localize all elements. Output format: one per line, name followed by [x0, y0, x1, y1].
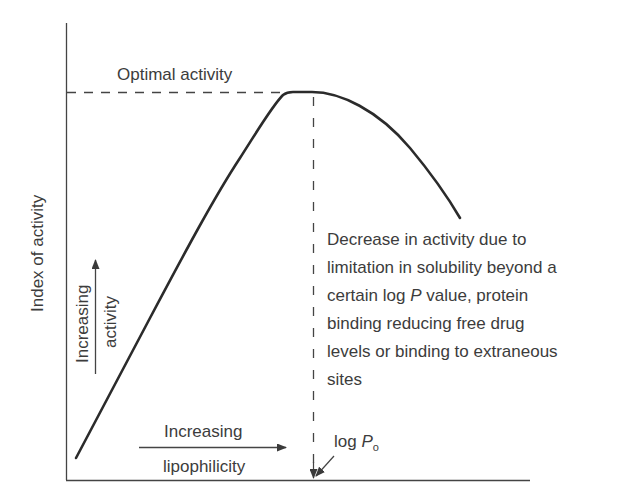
logp0-sub: o	[373, 441, 379, 453]
optimal-activity-label: Optimal activity	[117, 61, 232, 89]
note-line-3-var: P	[410, 286, 421, 305]
note-line-2: limitation in solubility beyond a	[327, 254, 558, 282]
logp0-var: P	[361, 432, 372, 451]
decrease-activity-note: Decrease in activity due to limitation i…	[327, 226, 558, 394]
note-line-1: Decrease in activity due to	[327, 226, 558, 254]
note-line-6: sites	[327, 366, 558, 394]
logp0-text: log	[334, 432, 361, 451]
note-line-3: certain log P value, protein	[327, 282, 558, 310]
increasing-activity-label-right: activity	[101, 296, 121, 348]
logp0-label: log Po	[334, 428, 379, 461]
note-line-3-post: value, protein	[422, 286, 529, 305]
note-line-3-pre: certain log	[327, 286, 410, 305]
logp0-pointer-arrow	[316, 456, 334, 476]
note-line-4: binding reducing free drug	[327, 310, 558, 338]
y-axis-title: Index of activity	[28, 195, 48, 312]
note-line-5: levels or binding to extraneous	[327, 338, 558, 366]
increasing-lipophilicity-label-top: Increasing	[164, 418, 242, 446]
increasing-lipophilicity-label-bottom: lipophilicity	[163, 453, 245, 481]
increasing-activity-label-left: Increasing	[73, 285, 93, 363]
